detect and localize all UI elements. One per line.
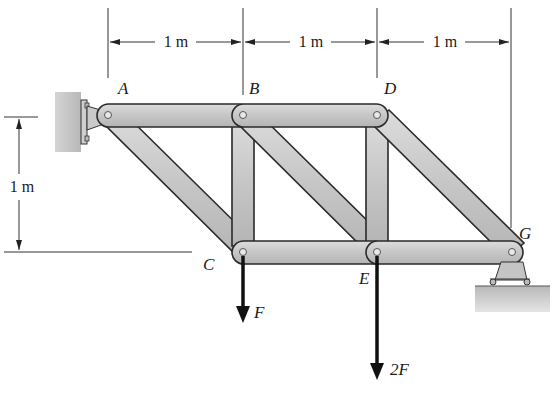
member-ce [232, 241, 386, 264]
member-eg [366, 241, 523, 264]
joint-label-c: C [203, 255, 215, 274]
pin-b-icon [240, 112, 247, 119]
joint-label-b: B [249, 79, 260, 98]
load-label-c: F [253, 303, 265, 322]
joint-label-e: E [358, 269, 370, 288]
dim-label-bd: 1 m [299, 33, 324, 50]
joint-label-g: G [519, 224, 531, 243]
wall-block [55, 92, 81, 152]
loads: F 2F [236, 249, 410, 381]
pin-d-icon [374, 112, 381, 119]
member-bd [232, 104, 388, 127]
bolt-bottom-icon [85, 136, 89, 141]
load-arrow-e-head-icon [370, 363, 384, 380]
dim-label-ab: 1 m [164, 33, 189, 50]
member-dg [372, 110, 524, 258]
truss-diagram: 1 m 1 m 1 m 1 m [0, 0, 560, 393]
dim-label-dg: 1 m [433, 33, 458, 50]
pin-c-icon [240, 249, 247, 256]
joint-label-a: A [117, 79, 129, 98]
dim-label-vertical: 1 m [10, 178, 35, 195]
roller-wheel-right-icon [524, 279, 530, 285]
vertical-dimension: 1 m [4, 117, 192, 252]
roller-bracket [495, 262, 527, 280]
ground-block [475, 286, 550, 312]
load-label-e: 2F [390, 360, 410, 379]
pin-e-icon [374, 249, 381, 256]
member-ab [97, 104, 251, 127]
roller-wheel-left-icon [490, 279, 496, 285]
truss-members [97, 104, 524, 264]
joint-label-d: D [383, 79, 397, 98]
wall-support-a [55, 92, 104, 152]
roller-support-g [475, 262, 550, 312]
load-arrow-c-head-icon [236, 306, 250, 323]
pin-a-icon [105, 112, 112, 119]
pin-g-icon [509, 249, 516, 256]
